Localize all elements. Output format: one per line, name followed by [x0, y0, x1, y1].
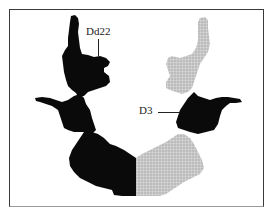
label-d3: D3 — [139, 105, 152, 116]
left-lower-blot — [69, 132, 136, 196]
inkblot-figure — [0, 0, 269, 208]
left-middle-blot — [35, 94, 96, 134]
right-upper-blot — [166, 17, 210, 94]
right-middle-blot — [176, 92, 242, 134]
leader-line-dd22 — [98, 39, 99, 56]
label-dd22: Dd22 — [86, 26, 110, 37]
right-lower-blot — [136, 134, 204, 196]
leader-line-d3 — [158, 112, 180, 113]
